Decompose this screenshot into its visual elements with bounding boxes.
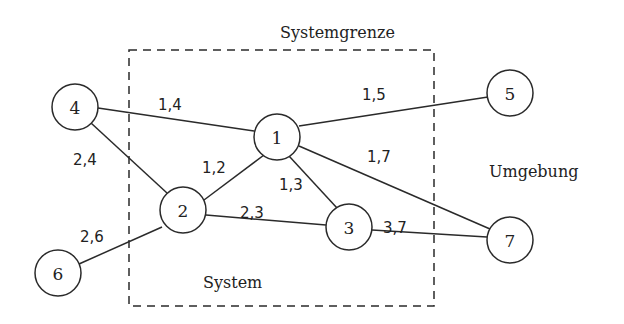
node-3: 3 [326, 204, 372, 250]
node-label-3: 3 [344, 218, 355, 238]
node-6: 6 [35, 250, 81, 296]
edge-label-2-4: 2,4 [73, 151, 97, 169]
edge-1-5 [299, 97, 488, 126]
node-label-4: 4 [70, 98, 81, 118]
node-label-6: 6 [53, 264, 64, 284]
node-5: 5 [487, 70, 533, 116]
node-7: 7 [487, 217, 533, 263]
edge-label-3-7: 3,7 [383, 219, 407, 237]
edge-label-1-7: 1,7 [367, 148, 391, 166]
node-4: 4 [52, 84, 98, 130]
edge-label-1-3: 1,3 [279, 176, 303, 194]
edge-label-2-6: 2,6 [80, 228, 104, 246]
edge-label-1-4: 1,4 [158, 96, 182, 114]
edge-label-2-3: 2,3 [240, 204, 264, 222]
edge-1-7 [299, 146, 490, 229]
system-label: System [203, 273, 262, 292]
edge-2-3 [206, 215, 326, 225]
node-label-2: 2 [178, 201, 189, 221]
node-1: 1 [254, 114, 300, 160]
node-label-1: 1 [272, 128, 283, 148]
node-label-5: 5 [505, 84, 516, 104]
edge-label-1-5: 1,5 [362, 86, 386, 104]
edge-label-1-2: 1,2 [202, 159, 226, 177]
node-label-7: 7 [505, 231, 516, 251]
boundary-label: Systemgrenze [280, 23, 395, 42]
node-2: 2 [160, 187, 206, 233]
environment-label: Umgebung [489, 162, 578, 181]
system-graph-diagram: 1,4 1,5 1,2 1,3 1,7 2,4 2,3 2,6 3,7 1 2 … [0, 0, 624, 324]
